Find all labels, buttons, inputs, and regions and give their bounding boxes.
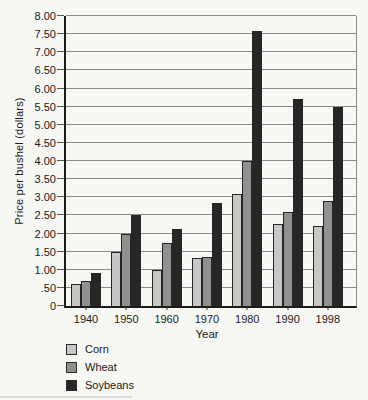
y-tick-label: 5.00 — [35, 119, 56, 130]
bar-group-1940 — [71, 16, 101, 306]
y-tick-mark — [57, 214, 64, 215]
y-tick-label: 8.00 — [35, 11, 56, 22]
y-tick-mark — [57, 160, 64, 161]
y-tick-label: 1.50 — [35, 246, 56, 257]
y-axis-title: Price per bushel (dollars) — [13, 97, 25, 224]
y-tick-mark — [57, 305, 64, 306]
bar-corn-1950 — [111, 252, 121, 306]
x-tick-label-1970: 1970 — [195, 313, 219, 325]
x-tick-mark — [206, 306, 207, 310]
y-tick-label: 7.50 — [35, 29, 56, 40]
bar-soybeans-1990 — [293, 99, 303, 306]
bar-group-1960 — [152, 16, 182, 306]
legend-item-wheat: Wheat — [66, 361, 134, 373]
bar-corn-1980 — [232, 194, 242, 306]
x-tick-mark — [86, 306, 87, 310]
y-tick-mark — [57, 196, 64, 197]
y-tick-label: 0 — [50, 301, 56, 312]
bar-corn-1970 — [192, 258, 202, 306]
bar-group-1980 — [232, 16, 262, 306]
legend-label-corn: Corn — [85, 343, 109, 355]
bar-corn-1940 — [71, 284, 81, 306]
y-tick-label: 3.00 — [35, 192, 56, 203]
bar-wheat-1998 — [323, 201, 333, 306]
y-tick-mark — [57, 15, 64, 16]
y-tick-mark — [57, 51, 64, 52]
y-tick-label: 3.50 — [35, 174, 56, 185]
bar-wheat-1970 — [202, 257, 212, 306]
bar-group-1998 — [313, 16, 343, 306]
x-tick-mark — [247, 306, 248, 310]
y-tick-label: 7.00 — [35, 47, 56, 58]
bar-group-1990 — [273, 16, 303, 306]
legend-label-soybeans: Soybeans — [85, 379, 134, 391]
y-tick-label: 6.50 — [35, 65, 56, 76]
plot-area: 8.007.507.006.506.005.505.004.504.003.50… — [64, 16, 357, 308]
legend-item-corn: Corn — [66, 343, 134, 355]
legend-label-wheat: Wheat — [85, 361, 117, 373]
x-tick-label-1980: 1980 — [235, 313, 259, 325]
bar-soybeans-1980 — [252, 31, 262, 307]
y-tick-mark — [57, 88, 64, 89]
y-tick-mark — [57, 142, 64, 143]
bar-soybeans-1970 — [212, 203, 222, 306]
bar-wheat-1990 — [283, 212, 293, 306]
bar-group-1950 — [111, 16, 141, 306]
y-tick-label: 2.50 — [35, 210, 56, 221]
bar-corn-1990 — [273, 224, 283, 306]
bar-wheat-1950 — [121, 234, 131, 307]
x-tick-label-1950: 1950 — [114, 313, 138, 325]
y-tick-label: 5.50 — [35, 101, 56, 112]
x-tick-mark — [327, 306, 328, 310]
y-tick-mark — [57, 69, 64, 70]
x-tick-label-1990: 1990 — [275, 313, 299, 325]
bar-wheat-1940 — [81, 281, 91, 306]
y-tick-mark — [57, 178, 64, 179]
y-tick-label: .50 — [41, 282, 56, 293]
x-tick-label-1998: 1998 — [316, 313, 340, 325]
wheat-swatch — [66, 362, 77, 373]
bar-soybeans-1998 — [333, 107, 343, 306]
legend-item-soybeans: Soybeans — [66, 379, 134, 391]
x-tick-mark — [166, 306, 167, 310]
bar-wheat-1960 — [162, 243, 172, 306]
legend: Corn Wheat Soybeans — [66, 343, 134, 397]
y-tick-mark — [57, 251, 64, 252]
x-tick-mark — [126, 306, 127, 310]
bar-wheat-1980 — [242, 161, 252, 306]
bar-soybeans-1960 — [172, 229, 182, 306]
y-tick-label: 4.50 — [35, 137, 56, 148]
x-axis-title: Year — [195, 328, 218, 340]
bar-soybeans-1950 — [131, 215, 141, 306]
y-tick-label: 6.00 — [35, 83, 56, 94]
y-tick-mark — [57, 233, 64, 234]
y-tick-mark — [57, 33, 64, 34]
y-tick-label: 4.00 — [35, 156, 56, 167]
corn-swatch — [66, 344, 77, 355]
x-tick-label-1940: 1940 — [74, 313, 98, 325]
y-tick-mark — [57, 124, 64, 125]
y-tick-label: 1.00 — [35, 264, 56, 275]
y-tick-mark — [57, 106, 64, 107]
price-per-bushel-bar-chart: Price per bushel (dollars) 8.007.507.006… — [0, 0, 368, 400]
y-tick-mark — [57, 269, 64, 270]
soybeans-swatch — [66, 380, 77, 391]
scan-artifact — [0, 396, 132, 398]
y-tick-label: 2.00 — [35, 228, 56, 239]
bar-corn-1998 — [313, 226, 323, 306]
bar-corn-1960 — [152, 270, 162, 306]
x-tick-mark — [287, 306, 288, 310]
bar-soybeans-1940 — [91, 273, 101, 306]
bar-group-1970 — [192, 16, 222, 306]
x-tick-label-1960: 1960 — [154, 313, 178, 325]
y-tick-mark — [57, 287, 64, 288]
